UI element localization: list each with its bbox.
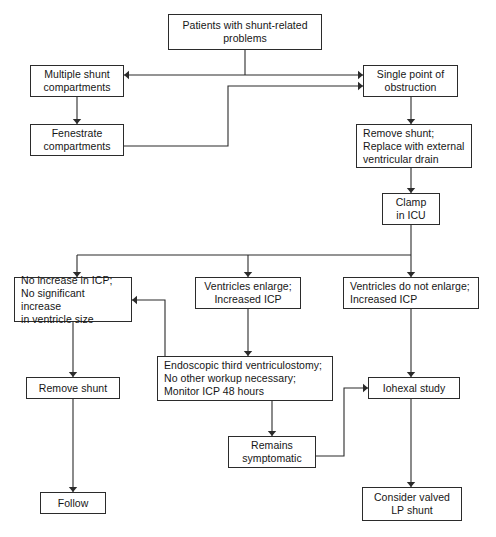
node-consider-valved-lp-shunt-label: Consider valved LP shunt [374,491,450,517]
node-fenestrate-compartments[interactable]: Fenestrate compartments [30,124,124,156]
node-endoscopic-third-ventriculostomy-label: Endoscopic third ventriculostomy; No oth… [164,359,322,398]
node-remains-symptomatic[interactable]: Remains symptomatic [228,436,316,468]
node-iohexal-study-label: Iohexal study [383,382,446,395]
node-ventricles-enlarge[interactable]: Ventricles enlarge; Increased ICP [195,277,301,309]
node-remove-shunt[interactable]: Remove shunt [26,377,120,399]
node-fenestrate-compartments-label: Fenestrate compartments [43,127,110,153]
fenestrate-to-single-point [124,86,363,146]
node-multiple-shunt-compartments-label: Multiple shunt compartments [43,68,110,94]
node-multiple-shunt-compartments[interactable]: Multiple shunt compartments [30,65,124,97]
node-patients-label: Patients with shunt-related problems [182,19,307,45]
node-ventricles-do-not-enlarge[interactable]: Ventricles do not enlarge; Increased ICP [343,277,479,309]
node-single-point-of-obstruction[interactable]: Single point of obstruction [363,65,458,97]
node-clamp-in-icu[interactable]: Clamp in ICU [382,193,440,225]
node-follow[interactable]: Follow [40,492,106,514]
node-ventricles-enlarge-label: Ventricles enlarge; Increased ICP [204,280,291,306]
node-ventricles-do-not-enlarge-label: Ventricles do not enlarge; Increased ICP [350,280,470,306]
node-no-increase-in-icp[interactable]: No increase in ICP; No significant incre… [14,277,132,322]
flowchart-canvas: Patients with shunt-related problems Mul… [0,0,496,537]
node-remains-symptomatic-label: Remains symptomatic [242,439,301,465]
node-patients[interactable]: Patients with shunt-related problems [168,14,322,50]
node-remove-shunt-label: Remove shunt [39,382,107,395]
node-consider-valved-lp-shunt[interactable]: Consider valved LP shunt [362,487,462,521]
node-remove-shunt-replace-evd-label: Remove shunt; Replace with external vent… [363,127,464,166]
endoscopic-to-no-increase [132,300,165,356]
node-remove-shunt-replace-evd[interactable]: Remove shunt; Replace with external vent… [356,124,472,168]
node-endoscopic-third-ventriculostomy[interactable]: Endoscopic third ventriculostomy; No oth… [157,356,333,401]
node-clamp-in-icu-label: Clamp in ICU [396,196,427,222]
node-iohexal-study[interactable]: Iohexal study [368,377,460,399]
node-follow-label: Follow [58,497,89,510]
node-no-increase-in-icp-label: No increase in ICP; No significant incre… [21,274,127,326]
node-single-point-of-obstruction-label: Single point of obstruction [377,68,444,94]
